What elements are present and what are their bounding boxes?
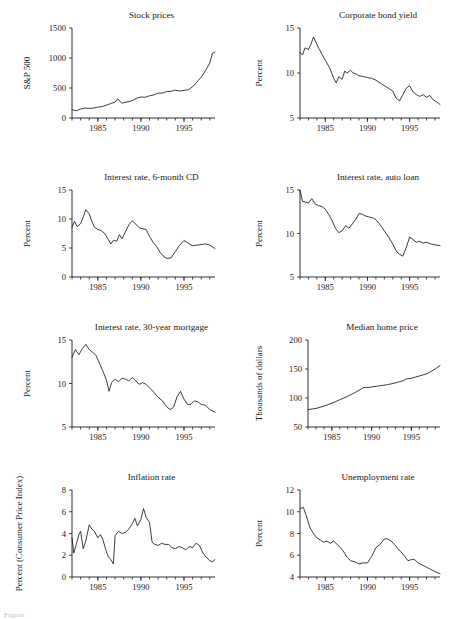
x-tick-label: 1990 [359, 123, 376, 133]
panel-title: Median home price [346, 322, 417, 332]
y-tick-label: 15 [285, 23, 294, 33]
x-tick-label: 1990 [132, 432, 149, 442]
data-series-line [72, 344, 215, 412]
x-tick-label: 1985 [89, 432, 106, 442]
y-tick-label: 15 [285, 185, 294, 195]
y-tick-label: 0 [62, 113, 66, 123]
y-tick-label: 1000 [49, 53, 66, 63]
y-tick-label: 100 [289, 393, 302, 403]
x-tick-label: 1985 [89, 282, 106, 292]
data-series-line [72, 52, 215, 111]
x-tick-label: 1995 [401, 123, 418, 133]
x-tick-label: 1995 [401, 582, 418, 592]
y-tick-label: 5 [290, 113, 294, 123]
y-tick-label: 0 [62, 272, 66, 282]
x-tick-label: 1995 [175, 282, 192, 292]
chart-panel-0: Stock pricesS&P 500050010001500198519901… [0, 0, 240, 165]
panel-title: Interest rate, 30-year mortgage [95, 322, 208, 332]
x-tick-label: 1990 [359, 582, 376, 592]
y-tick-label: 8 [62, 485, 66, 495]
chart-panel-2: Interest rate, 6-month CDPercent05101519… [0, 165, 240, 315]
data-series-line [300, 190, 440, 256]
axis-spines [72, 190, 215, 277]
y-axis-label: Percent [254, 520, 264, 547]
x-tick-label: 1985 [317, 123, 334, 133]
x-tick-label: 1995 [401, 282, 418, 292]
axis-spines [72, 490, 215, 577]
y-tick-label: 4 [62, 529, 67, 539]
data-series-line [72, 508, 215, 563]
x-tick-label: 1990 [132, 282, 149, 292]
y-tick-label: 8 [290, 529, 294, 539]
y-tick-label: 12 [285, 485, 294, 495]
y-tick-label: 10 [285, 229, 294, 239]
y-tick-label: 15 [57, 335, 66, 345]
axis-spines [300, 28, 440, 118]
chart-panel-5: Median home priceThousands of dollars501… [240, 315, 453, 465]
chart-panel-7: Unemployment ratePercent4681012198519901… [240, 465, 453, 615]
panel-title: Inflation rate [128, 472, 176, 482]
y-tick-label: 5 [290, 272, 294, 282]
axis-spines [300, 190, 440, 277]
panel-title: Unemployment rate [341, 472, 414, 482]
data-series-line [300, 507, 440, 573]
chart-panel-4: Interest rate, 30-year mortgagePercent51… [0, 315, 240, 465]
x-tick-label: 1985 [323, 432, 340, 442]
y-tick-label: 10 [57, 379, 66, 389]
y-tick-label: 50 [293, 422, 302, 432]
y-tick-label: 0 [62, 572, 66, 582]
x-tick-label: 1990 [132, 123, 149, 133]
chart-panel-3: Interest rate, auto loanPercent510151985… [240, 165, 453, 315]
y-tick-label: 5 [62, 243, 66, 253]
x-tick-label: 1990 [359, 282, 376, 292]
data-series-line [308, 366, 440, 410]
y-tick-label: 10 [57, 214, 66, 224]
x-tick-label: 1990 [363, 432, 380, 442]
y-axis-label: Thousands of dollars [254, 345, 264, 421]
y-tick-label: 5 [62, 422, 66, 432]
panel-title: Interest rate, auto loan [337, 172, 420, 182]
chart-panel-6: Inflation ratePercent (Consumer Price In… [0, 465, 240, 615]
y-axis-label: Percent [22, 220, 32, 247]
y-tick-label: 10 [285, 507, 294, 517]
axis-spines [72, 28, 215, 118]
panel-title: Interest rate, 6-month CD [104, 172, 199, 182]
data-series-line [72, 210, 215, 259]
y-tick-label: 2 [62, 550, 66, 560]
x-tick-label: 1995 [403, 432, 420, 442]
y-tick-label: 500 [53, 83, 66, 93]
y-tick-label: 4 [290, 572, 295, 582]
figure-caption: Figure [4, 611, 25, 619]
y-tick-label: 200 [289, 335, 302, 345]
x-tick-label: 1995 [175, 123, 192, 133]
y-tick-label: 6 [62, 507, 67, 517]
axis-spines [308, 340, 440, 427]
panel-title: Corporate bond yield [339, 10, 417, 20]
axis-spines [300, 490, 440, 577]
y-axis-label: S&P 500 [22, 56, 32, 89]
y-tick-label: 15 [57, 185, 66, 195]
y-tick-label: 10 [285, 68, 294, 78]
data-series-line [300, 37, 440, 105]
y-axis-label: Percent [254, 220, 264, 247]
panel-title: Stock prices [129, 10, 175, 20]
x-tick-label: 1995 [175, 582, 192, 592]
x-tick-label: 1995 [175, 432, 192, 442]
y-tick-label: 6 [290, 550, 295, 560]
figure-panel-grid: Stock pricesS&P 500050010001500198519901… [0, 0, 453, 619]
x-tick-label: 1985 [89, 123, 106, 133]
y-tick-label: 150 [289, 364, 302, 374]
y-axis-label: Percent (Consumer Price Index) [14, 476, 24, 592]
x-tick-label: 1985 [317, 582, 334, 592]
x-tick-label: 1985 [317, 282, 334, 292]
x-tick-label: 1985 [89, 582, 106, 592]
y-tick-label: 1500 [49, 23, 66, 33]
y-axis-label: Percent [22, 370, 32, 397]
chart-panel-1: Corporate bond yieldPercent5101519851990… [240, 0, 453, 165]
y-axis-label: Percent [254, 59, 264, 86]
x-tick-label: 1990 [132, 582, 149, 592]
